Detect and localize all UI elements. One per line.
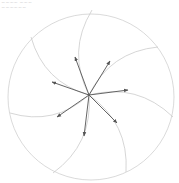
spiral-arm [89, 95, 126, 172]
spiral-arm [31, 37, 89, 95]
vector-arrow [89, 90, 128, 95]
vector-arrow [52, 82, 89, 95]
spiral-arm [89, 92, 173, 117]
spiral-arm [79, 10, 92, 95]
spiral-arm [10, 95, 89, 117]
vector-arrow [89, 61, 110, 95]
vector-arrow [89, 95, 117, 123]
vector-arrow [75, 57, 89, 95]
spiral-arm [89, 47, 158, 95]
vector-arrow [57, 95, 89, 117]
vector-arrows [52, 57, 128, 136]
spiral-diagram [0, 0, 179, 183]
